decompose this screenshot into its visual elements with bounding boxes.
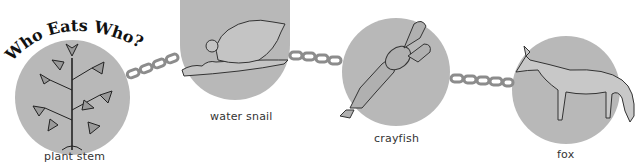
label-fox: fox [557,148,574,161]
label-water-snail: water snail [210,110,273,123]
chain-icon [290,52,341,64]
crayfish-icon [340,21,430,118]
title-text: Who Eats Who? [1,16,147,65]
plant-icon [33,44,112,150]
label-crayfish: crayfish [374,132,419,145]
food-chain-diagram: Who Eats Who? [0,0,642,165]
chain-icon [451,75,513,86]
chain-icon [126,53,179,79]
fox-icon [516,46,634,122]
illustration-layer: Who Eats Who? [0,0,642,165]
snail-icon [182,20,288,76]
label-plant-stem: plant stem [44,150,105,163]
